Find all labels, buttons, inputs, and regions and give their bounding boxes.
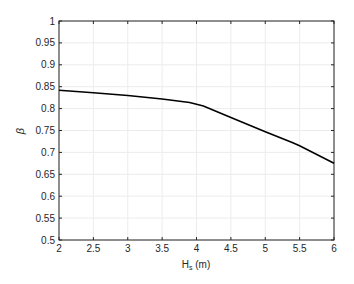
x-tick-label: 2: [56, 243, 62, 254]
grid-lines: [59, 21, 334, 240]
y-tick-label: 0.65: [36, 169, 56, 180]
y-tick-label: 0.85: [36, 81, 56, 92]
x-tick-label: 5.5: [293, 243, 307, 254]
x-tick-label: 4: [194, 243, 200, 254]
y-tick-label: 0.55: [36, 213, 56, 224]
y-axis-label: β: [14, 127, 26, 135]
y-tick-label: 0.9: [41, 59, 55, 70]
x-tick-label: 2.5: [86, 243, 100, 254]
y-tick-label: 1: [49, 16, 55, 27]
x-tick-label: 4.5: [224, 243, 238, 254]
y-tick-label: 0.7: [41, 147, 55, 158]
y-tick-label: 0.6: [41, 191, 55, 202]
x-tick-label: 3: [125, 243, 131, 254]
x-tick-label: 3.5: [155, 243, 169, 254]
y-tick-label: 0.5: [41, 235, 55, 246]
x-tick-label: 6: [331, 243, 337, 254]
y-tick-label: 0.95: [36, 37, 56, 48]
line-chart: 22.533.544.555.560.50.550.60.650.70.750.…: [0, 0, 354, 284]
y-tick-label: 0.75: [36, 125, 56, 136]
x-tick-label: 5: [262, 243, 268, 254]
x-axis-label: Hs (m): [182, 259, 211, 271]
y-tick-label: 0.8: [41, 103, 55, 114]
